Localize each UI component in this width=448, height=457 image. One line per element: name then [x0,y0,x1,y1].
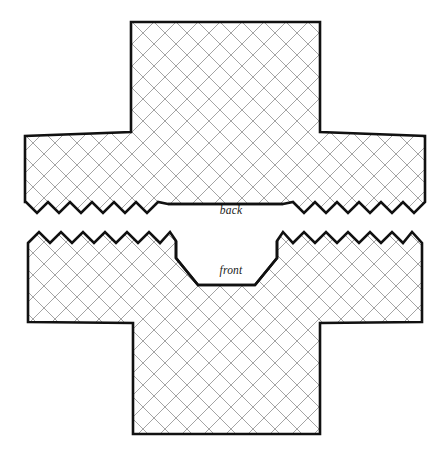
back-label: back [220,204,243,216]
garment-schematic-svg: back front [0,0,448,457]
diagram-root: back front [0,0,448,457]
front-label: front [220,264,244,277]
front-neckline-edge [176,241,277,285]
